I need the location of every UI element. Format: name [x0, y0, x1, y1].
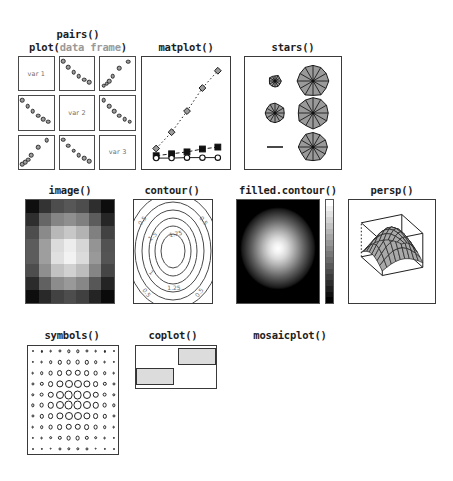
pairs-data-point [87, 80, 92, 85]
caption-plot-suffix: ) [121, 41, 127, 53]
symbols-circle [57, 360, 61, 364]
symbols-circle [56, 380, 63, 387]
pairs-data-point [107, 104, 112, 109]
image-pixel [89, 239, 102, 252]
filled-contour-colorbar[interactable] [325, 199, 334, 304]
image-pixel [76, 264, 89, 277]
symbols-circle [64, 412, 72, 420]
pairs-scatter-cell [18, 95, 55, 130]
symbols-circle [103, 371, 107, 375]
pairs-data-point [117, 66, 122, 71]
image-pixel [26, 239, 39, 252]
symbols-circle [65, 424, 71, 430]
caption-pairs: pairs() [57, 28, 100, 40]
pairs-scatter-cell [59, 56, 96, 91]
symbols-circle [57, 424, 63, 430]
symbols-circle [64, 401, 73, 410]
image-pixel [26, 252, 39, 265]
image-panel[interactable] [25, 199, 115, 304]
symbols-circle [113, 448, 115, 450]
pairs-data-point [107, 79, 112, 84]
coplot-shingle-panel[interactable] [135, 345, 217, 389]
symbols-circle [102, 382, 106, 386]
image-pixel [101, 252, 114, 265]
symbols-circle [40, 436, 43, 439]
pairs-data-point [82, 156, 87, 161]
gallery-sheet: pairs() plot(data frame) var 1var 2var 3… [0, 0, 453, 481]
image-pixel [51, 239, 64, 252]
symbols-circle [64, 390, 73, 399]
symbols-circle [48, 413, 54, 419]
persp-panel[interactable] [348, 199, 436, 304]
matplot-panel[interactable] [141, 56, 231, 170]
symbols-circle [48, 381, 54, 387]
image-pixel [76, 200, 89, 213]
symbols-circle [65, 370, 71, 376]
symbols-circle [49, 350, 52, 353]
symbols-circle [84, 370, 90, 376]
caption-plot-dim: data frame [60, 41, 121, 53]
image-pixel [64, 290, 77, 303]
image-pixel [64, 252, 77, 265]
symbols-circle [103, 361, 106, 364]
matplot-svg [142, 57, 230, 169]
symbols-circle [49, 360, 53, 364]
stars-panel[interactable] [244, 56, 342, 170]
pairs-data-point [117, 113, 122, 118]
pairs-data-point [61, 59, 66, 64]
symbols-circle [31, 415, 34, 418]
pairs-data-point [29, 153, 34, 158]
image-pixel [89, 252, 102, 265]
symbols-circle [31, 393, 34, 396]
pairs-scatter-cell [99, 95, 136, 130]
image-pixel [101, 200, 114, 213]
symbols-circle [73, 390, 82, 399]
caption-coplot: coplot() [149, 329, 198, 341]
symbols-circle [40, 361, 43, 364]
image-pixel [51, 264, 64, 277]
symbols-panel[interactable] [27, 345, 119, 455]
symbols-circle [58, 447, 61, 450]
pairs-data-point [44, 138, 49, 143]
pairs-data-point [46, 119, 51, 124]
pairs-diagonal-label: var 1 [27, 70, 45, 78]
matplot-marker-diamond [199, 85, 206, 92]
persp-svg [349, 200, 435, 303]
caption-plot-prefix: plot( [29, 41, 60, 53]
image-pixel [64, 213, 77, 226]
matplot-marker-circle [200, 155, 205, 160]
filled-contour-field[interactable] [236, 199, 320, 304]
symbols-circle [31, 437, 33, 439]
pairs-diagonal-cell-2: var 2 [59, 95, 96, 130]
image-pixel [26, 290, 39, 303]
pairs-panel[interactable]: var 1var 2var 3 [18, 56, 136, 170]
contour-line-2 [142, 210, 204, 292]
symbols-circle [93, 425, 98, 430]
symbols-circle [94, 436, 98, 440]
symbols-circle [83, 413, 90, 420]
matplot-marker-square [200, 146, 206, 152]
colorbar-step [326, 297, 333, 303]
symbols-circle [112, 437, 114, 439]
pairs-data-point [36, 113, 41, 118]
contour-panel[interactable]: 0.50.50.50.51.511.751.25 [133, 199, 213, 304]
symbols-circle [112, 382, 115, 385]
pairs-data-point [41, 117, 46, 122]
symbols-circle [40, 425, 44, 429]
symbols-circle [55, 391, 63, 399]
pairs-data-point [76, 153, 81, 158]
contour-label: 0.5 [193, 286, 205, 298]
symbols-circle [49, 436, 53, 440]
stars-center [311, 79, 314, 82]
symbols-circle [94, 350, 97, 353]
caption-image: image() [49, 184, 92, 196]
symbols-circle [93, 381, 99, 387]
symbols-circle [31, 426, 34, 429]
symbols-circle [39, 392, 44, 397]
pairs-diagonal-label: var 3 [109, 148, 127, 156]
symbols-circle [40, 350, 42, 352]
matplot-marker-diamond [153, 145, 160, 152]
image-pixel [39, 239, 52, 252]
stars-center [311, 145, 314, 148]
pairs-data-point [36, 145, 41, 150]
